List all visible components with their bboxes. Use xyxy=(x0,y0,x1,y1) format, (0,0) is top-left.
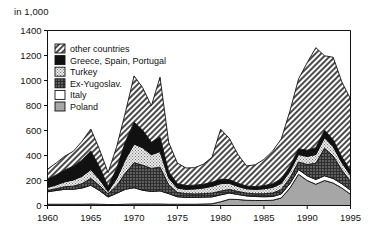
y-tick-label: 200 xyxy=(26,175,42,186)
legend-label: other countries xyxy=(70,44,130,54)
legend-swatch-italy xyxy=(55,90,65,99)
legend-swatch-greece-spain-portugal xyxy=(55,56,65,65)
y-tick-label: 0 xyxy=(36,200,41,211)
legend-swatch-poland xyxy=(55,102,65,111)
x-tick-label: 1965 xyxy=(80,212,101,223)
legend-label: Italy xyxy=(70,90,87,100)
legend-label: Greece, Spain, Portugal xyxy=(70,56,166,66)
x-tick-label: 1985 xyxy=(253,212,274,223)
x-tick-label: 1970 xyxy=(124,212,145,223)
legend-swatch-other-countries xyxy=(55,44,65,53)
legend-swatch-turkey xyxy=(55,67,65,76)
stacked-area-chart: 0200400600800100012001400196019651970197… xyxy=(0,0,376,237)
legend-label: Poland xyxy=(70,102,98,112)
x-tick-label: 1990 xyxy=(297,212,318,223)
x-tick-label: 1980 xyxy=(210,212,231,223)
y-tick-label: 1200 xyxy=(20,50,41,61)
y-tick-label: 800 xyxy=(26,100,42,111)
y-tick-label: 1400 xyxy=(20,25,41,36)
legend-label: Turkey xyxy=(70,67,98,77)
x-tick-label: 1960 xyxy=(37,212,58,223)
legend-label: Ex-Yugoslav. xyxy=(70,79,122,89)
y-tick-label: 1000 xyxy=(20,75,41,86)
x-tick-label: 1995 xyxy=(340,212,361,223)
y-tick-label: 400 xyxy=(26,150,42,161)
chart-root: in 1,000 xyxy=(0,0,376,237)
y-tick-label: 600 xyxy=(26,125,42,136)
legend-swatch-ex-yugoslav xyxy=(55,79,65,88)
x-tick-label: 1975 xyxy=(167,212,188,223)
